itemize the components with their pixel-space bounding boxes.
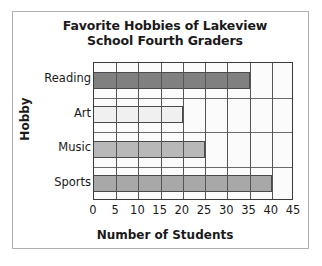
bar-band (94, 132, 292, 167)
y-tick-sports: Sports (29, 175, 91, 189)
vertical-gridline (205, 63, 206, 199)
chart-title-line-2: School Fourth Graders (40, 33, 290, 48)
vertical-gridline (183, 63, 184, 199)
chart-title-line-1: Favorite Hobbies of Lakeview (40, 18, 290, 33)
vertical-gridline (272, 63, 273, 199)
bar-band (94, 98, 292, 133)
vertical-gridline (161, 63, 162, 199)
y-axis-tick-labels: ReadingArtMusicSports (28, 62, 91, 200)
horizontal-gridline (94, 98, 292, 99)
horizontal-gridline (94, 132, 292, 133)
x-tick-45: 45 (278, 203, 308, 217)
vertical-gridline (138, 63, 139, 199)
horizontal-gridline (94, 167, 292, 168)
y-tick-music: Music (29, 140, 91, 154)
bar-music[interactable] (94, 141, 205, 158)
y-tick-art: Art (29, 106, 91, 120)
bar-band (94, 167, 292, 201)
vertical-gridline (227, 63, 228, 199)
x-axis-tick-labels: 051015202530354045 (93, 203, 293, 219)
vertical-gridline (116, 63, 117, 199)
chart-title: Favorite Hobbies of Lakeview School Four… (40, 18, 290, 48)
chart-figure: Favorite Hobbies of Lakeview School Four… (0, 0, 322, 266)
bar-reading[interactable] (94, 72, 250, 89)
y-tick-reading: Reading (29, 71, 91, 85)
vertical-gridline (250, 63, 251, 199)
x-axis-label: Number of Students (40, 228, 290, 242)
bar-band (94, 63, 292, 98)
plot-area (93, 62, 293, 200)
